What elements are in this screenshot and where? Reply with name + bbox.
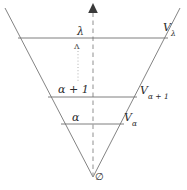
ordinal-label-lambda: λ <box>77 26 84 37</box>
set-label-v-lambda-base: V <box>163 21 171 34</box>
set-label-v-alpha-base: V <box>124 111 132 124</box>
set-label-v-lambda-subscript: λ <box>171 29 176 38</box>
caret-up-icon: ʌ <box>74 41 80 51</box>
cumulative-hierarchy-diagram: λ α + 1 α ʌ Vλ Vα + 1 Vα ∅ <box>0 0 187 190</box>
set-label-v-alpha-plus-one-subscript: α + 1 <box>148 92 169 101</box>
set-label-v-alpha-plus-one: Vα + 1 <box>140 85 169 99</box>
set-label-v-alpha-subscript: α <box>132 119 137 128</box>
set-label-v-lambda: Vλ <box>163 22 176 36</box>
ordinal-label-alpha: α <box>72 112 79 123</box>
set-label-v-alpha: Vα <box>124 112 137 126</box>
ordinal-label-alpha-plus-one: α + 1 <box>58 84 89 95</box>
empty-set-label: ∅ <box>95 172 104 182</box>
axis-arrow-icon <box>88 3 98 13</box>
set-label-v-alpha-plus-one-base: V <box>140 84 148 97</box>
